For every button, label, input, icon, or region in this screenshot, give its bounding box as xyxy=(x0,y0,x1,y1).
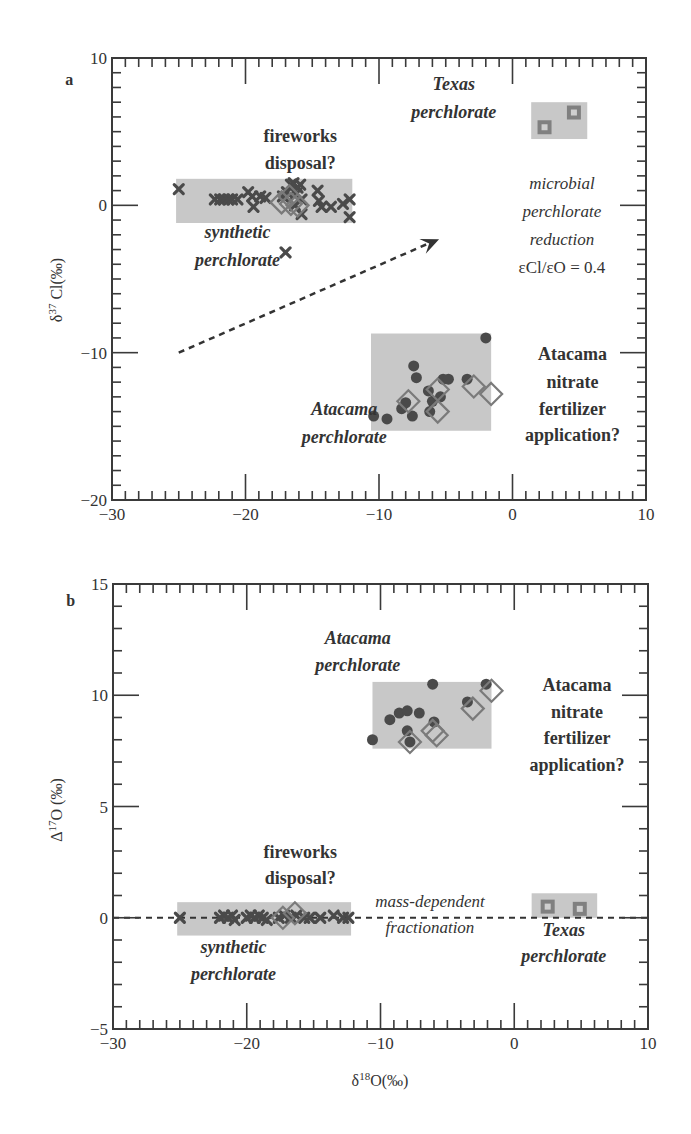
x-tick-label: 0 xyxy=(508,505,517,524)
x-tick-label: −20 xyxy=(232,505,259,524)
figure: −30−20−10010100−10−20 afireworksdisposal… xyxy=(0,0,691,1134)
annotation-synthetic2: perchlorate xyxy=(189,964,276,984)
circle-marker xyxy=(384,714,395,725)
x-tick-label: 10 xyxy=(640,1034,657,1053)
annotation-synthetic1: synthetic xyxy=(203,222,270,242)
y-tick-label: −10 xyxy=(80,344,107,363)
annotation-panel_letter: b xyxy=(66,592,75,609)
annotation-nitrate1: Atacama xyxy=(543,675,612,695)
y-tick-label: 0 xyxy=(100,909,109,928)
annotation-texas1: Texas xyxy=(433,74,475,94)
annotation-atacama1: Atacama xyxy=(310,399,377,419)
x-tick-label: 10 xyxy=(638,505,655,524)
y-tick-label: 5 xyxy=(100,798,109,817)
x-tick-label: −10 xyxy=(367,1034,394,1053)
annotation-nitrate4: application? xyxy=(525,425,620,445)
annotation-nitrate1: Atacama xyxy=(538,344,607,364)
y-axis-label: Δ17O (‰) xyxy=(46,778,66,842)
annotation-nitrate2: nitrate xyxy=(551,702,603,722)
x-marker xyxy=(281,248,290,257)
annotation-texas2: perchlorate xyxy=(409,102,496,122)
circle-marker xyxy=(404,736,415,747)
annotation-texas2: perchlorate xyxy=(519,946,606,966)
circle-marker xyxy=(367,734,378,745)
x-tick-label: 0 xyxy=(510,1034,519,1053)
panel-a-delta37cl-vs-delta18o: −30−20−10010100−10−20 afireworksdisposal… xyxy=(46,49,655,524)
annotation-fireworks1: fireworks xyxy=(263,842,337,862)
x-axis-label: δ18O(‰) xyxy=(352,1070,409,1090)
annotation-nitrate3: fertilizer xyxy=(539,399,606,419)
annotation-microbial1: microbial xyxy=(529,174,595,193)
annotation-atacama2: perchlorate xyxy=(313,655,400,675)
annotation-nitrate2: nitrate xyxy=(547,372,599,392)
annotation-microbial2: perchlorate xyxy=(522,202,602,221)
circle-marker xyxy=(411,372,422,383)
circle-marker xyxy=(427,679,438,690)
y-tick-label: 0 xyxy=(99,196,108,215)
circle-marker xyxy=(402,705,413,716)
annotation-synthetic1: synthetic xyxy=(199,937,266,957)
y-tick-label: −20 xyxy=(80,491,107,510)
y-axis-label: δ37 Cl(‰) xyxy=(46,258,66,322)
x-tick-label: −10 xyxy=(366,505,393,524)
x-tick-label: −20 xyxy=(233,1034,260,1053)
annotation-texas1: Texas xyxy=(543,920,585,940)
annotation-atacama1: Atacama xyxy=(324,628,391,648)
annotation-fireworks2: disposal? xyxy=(265,153,336,173)
y-tick-label: 10 xyxy=(91,686,108,705)
annotation-microbial4: εCl/εO = 0.4 xyxy=(519,258,606,277)
circle-marker xyxy=(443,374,454,385)
annotation-nitrate3: fertilizer xyxy=(544,728,611,748)
circle-marker xyxy=(408,360,419,371)
annotation-synthetic2: perchlorate xyxy=(193,250,280,270)
circle-marker xyxy=(414,708,425,719)
annotation-panel_letter: a xyxy=(65,71,73,88)
annotation-mdf1: mass-dependent xyxy=(375,892,486,911)
annotation-fireworks2: disposal? xyxy=(265,868,336,888)
annotation-mdf2: fractionation xyxy=(386,918,475,937)
annotation-atacama2: perchlorate xyxy=(300,427,387,447)
annotation-nitrate4: application? xyxy=(530,755,625,775)
y-tick-label: 10 xyxy=(90,49,107,68)
annotation-fireworks1: fireworks xyxy=(263,126,337,146)
panel-b-cap-delta17o-vs-delta18o: −30−20−10010151050−5 bAtacamaperchlorate… xyxy=(46,575,657,1090)
y-tick-label: 15 xyxy=(91,575,108,594)
annotation-microbial3: reduction xyxy=(530,230,595,249)
circle-marker xyxy=(382,413,393,424)
circle-marker xyxy=(480,332,491,343)
y-tick-label: −5 xyxy=(90,1020,108,1039)
